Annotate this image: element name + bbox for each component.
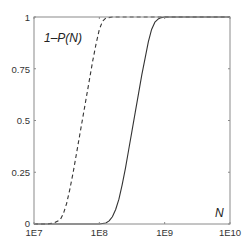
y-tick-label-0.5: 0.5	[17, 115, 30, 126]
x-tick-label-1e7: 1E7	[26, 227, 43, 238]
chart: 1 0.75 0.5 0.25 0 1E7 1E8 1E9 1E10 1–P(N…	[0, 0, 251, 251]
y-tick-label-0.75: 0.75	[12, 64, 31, 75]
x-tick-label-1e10: 1E10	[219, 227, 241, 238]
y-axis-annotation: 1–P(N)	[44, 31, 82, 45]
x-tick-label-1e9: 1E9	[156, 227, 173, 238]
x-tick-label-1e8: 1E8	[91, 227, 108, 238]
x-axis-annotation: N	[215, 206, 224, 220]
y-tick-label-1: 1	[25, 12, 30, 23]
y-tick-label-0.25: 0.25	[12, 167, 31, 178]
chart-background	[0, 0, 251, 251]
